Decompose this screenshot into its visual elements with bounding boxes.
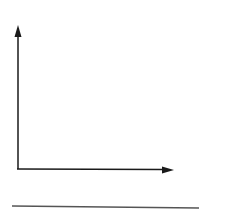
x-axis: [17, 167, 174, 174]
x-axis-arrowhead-icon: [162, 167, 174, 174]
axes-diagram: [0, 0, 244, 223]
y-axis-arrowhead-icon: [15, 25, 22, 37]
baseline-rule: [12, 206, 199, 208]
y-axis: [15, 25, 22, 169]
